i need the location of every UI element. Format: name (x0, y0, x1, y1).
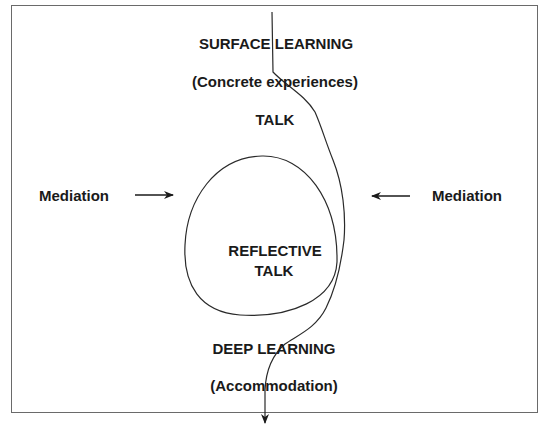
deep-learning-label: DEEP LEARNING (212, 341, 335, 356)
accommodation-label: (Accommodation) (210, 378, 338, 393)
reflective-talk-label: TALK (255, 263, 294, 278)
diagram-graphics (0, 0, 548, 440)
surface-learning-label: SURFACE LEARNING (199, 36, 353, 51)
talk-label: TALK (256, 112, 295, 127)
reflective-loop (185, 156, 337, 315)
mediation-left-label: Mediation (39, 188, 109, 203)
reflective-label: REFLECTIVE (228, 243, 321, 258)
concrete-experiences-label: (Concrete experiences) (192, 74, 358, 89)
mediation-right-label: Mediation (432, 188, 502, 203)
